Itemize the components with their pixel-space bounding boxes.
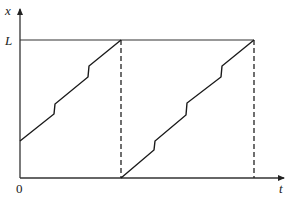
origin-label: 0 — [16, 181, 23, 196]
y-axis-label: x — [4, 3, 11, 18]
x-axis-label: t — [279, 181, 283, 196]
level-L-label: L — [4, 33, 12, 48]
diagram-canvas: x L 0 t — [0, 0, 294, 204]
trajectory-cycle-1 — [20, 40, 121, 141]
trajectory-cycle-2 — [121, 40, 254, 178]
